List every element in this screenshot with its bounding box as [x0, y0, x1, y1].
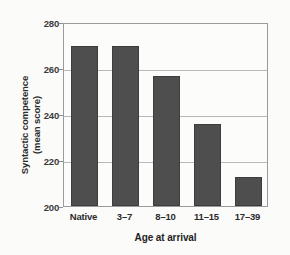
bar	[235, 177, 262, 206]
y-tick-label-220: 220	[19, 156, 59, 167]
x-axis-title: Age at arrival	[63, 232, 268, 243]
y-tick-label-280: 280	[19, 18, 59, 29]
x-tick-label: 17–39	[235, 211, 260, 222]
bar	[71, 46, 98, 206]
bar	[112, 46, 139, 206]
x-tick-label: 8–10	[155, 211, 175, 222]
chart-figure: Syntactic competence (mean score) 200220…	[0, 0, 290, 255]
bar	[194, 124, 221, 206]
y-axis-title-line-2: (mean score)	[31, 96, 43, 154]
plot-area	[63, 23, 268, 207]
x-tick-label: 3–7	[117, 211, 132, 222]
x-tick-label: 11–15	[194, 211, 219, 222]
y-axis-title: Syntactic competence (mean score)	[14, 30, 48, 220]
y-tick-label-200: 200	[19, 202, 59, 213]
bar	[153, 76, 180, 206]
x-tick-label: Native	[70, 211, 97, 222]
y-tick-label-240: 240	[19, 110, 59, 121]
y-tick-mark-200	[59, 207, 63, 208]
y-tick-label-260: 260	[19, 64, 59, 75]
